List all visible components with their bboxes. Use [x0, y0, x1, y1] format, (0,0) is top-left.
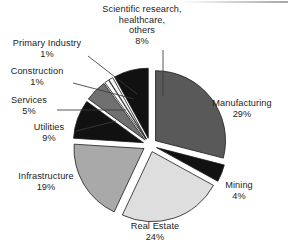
pie-slice-group — [74, 68, 226, 221]
pie-label-infrastructure-name: Infrastructure — [4, 171, 88, 182]
pie-chart-figure: Scientific research, healthcare, others … — [0, 0, 288, 249]
pie-label-scientific-research-line3: others — [88, 25, 196, 36]
pie-label-utilities-name: Utilities — [22, 122, 76, 133]
pie-label-services-name: Services — [2, 95, 56, 106]
pie-label-real-estate-value: 24% — [112, 232, 198, 243]
pie-label-utilities-value: 9% — [22, 133, 76, 144]
pie-label-infrastructure-value: 19% — [4, 182, 88, 193]
pie-label-infrastructure: Infrastructure 19% — [4, 171, 88, 192]
pie-label-real-estate-name: Real Estate — [112, 221, 198, 232]
pie-label-construction-value: 1% — [2, 77, 72, 88]
pie-label-primary-industry-name: Primary Industry — [5, 38, 89, 49]
pie-label-real-estate: Real Estate 24% — [112, 221, 198, 242]
pie-label-construction-name: Construction — [2, 66, 72, 77]
pie-label-manufacturing: Manufacturing 29% — [199, 98, 285, 119]
pie-label-mining-name: Mining — [213, 180, 265, 191]
pie-label-scientific-research-value: 8% — [88, 36, 196, 47]
pie-label-scientific-research-line1: Scientific research, — [88, 4, 196, 15]
pie-label-utilities: Utilities 9% — [22, 122, 76, 143]
pie-label-manufacturing-name: Manufacturing — [199, 98, 285, 109]
pie-label-services-value: 5% — [2, 106, 56, 117]
pie-label-construction: Construction 1% — [2, 66, 72, 87]
pie-label-scientific-research: Scientific research, healthcare, others … — [88, 4, 196, 46]
pie-label-manufacturing-value: 29% — [199, 109, 285, 120]
pie-label-services: Services 5% — [2, 95, 56, 116]
pie-label-mining-value: 4% — [213, 191, 265, 202]
pie-label-scientific-research-line2: healthcare, — [88, 15, 196, 26]
pie-label-primary-industry: Primary Industry 1% — [5, 38, 89, 59]
pie-label-primary-industry-value: 1% — [5, 49, 89, 60]
pie-label-mining: Mining 4% — [213, 180, 265, 201]
